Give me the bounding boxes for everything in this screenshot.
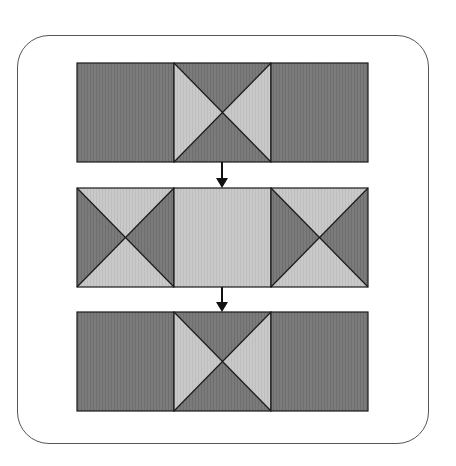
diagram-row-2 bbox=[77, 188, 368, 287]
solid-square bbox=[174, 188, 271, 287]
hourglass-square bbox=[174, 63, 271, 162]
solid-square bbox=[77, 63, 174, 162]
solid-square bbox=[271, 63, 368, 162]
hourglass-square bbox=[77, 188, 174, 287]
hourglass-square bbox=[271, 188, 368, 287]
solid-square bbox=[271, 312, 368, 411]
quilt-block-diagram bbox=[0, 0, 456, 466]
solid-square bbox=[77, 312, 174, 411]
arrow-down-icon bbox=[216, 162, 228, 188]
diagram-row-1 bbox=[77, 63, 368, 162]
arrow-down-icon bbox=[216, 287, 228, 312]
diagram-row-3 bbox=[77, 312, 368, 411]
hourglass-square bbox=[174, 312, 271, 411]
